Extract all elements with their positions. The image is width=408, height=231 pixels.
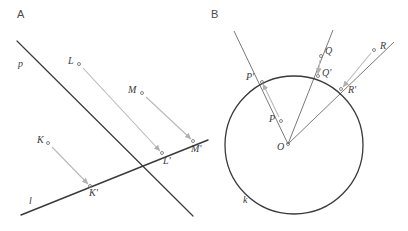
ray-O-through-P [234,31,288,144]
point-M-label: M [127,84,137,95]
point-Rprime-marker [340,88,343,91]
panel-b-label: B [211,8,218,20]
point-K-marker [47,142,50,145]
point-P-label: P [268,113,275,124]
line-l-label: l [29,195,32,206]
ray-O-through-R [288,42,394,144]
point-P-marker [280,120,283,123]
point-Pprime-label: P' [245,71,255,82]
figure-canvas: A p l K L M K' L' M' B [0,0,408,231]
point-Rprime-label: R' [347,84,357,95]
point-Kprime-label: K' [88,187,99,198]
point-Pprime-marker [261,81,264,84]
point-R-label: R [379,40,386,51]
point-R-marker [373,49,376,52]
point-M-marker [141,92,144,95]
point-Q-marker [320,55,323,58]
panel-b: B k O P Q R P' Q' R' [211,8,394,214]
point-L-marker [78,63,81,66]
point-Lprime-label: L' [162,155,172,166]
geometry-figure: A p l K L M K' L' M' B [0,0,408,231]
point-L-label: L [67,55,74,66]
line-p-label: p [17,58,23,69]
point-Qprime-label: Q' [322,67,332,78]
point-O-label: O [277,141,284,152]
line-p [17,41,193,216]
point-Mprime-label: M' [190,143,202,154]
panel-a-label: A [17,8,25,20]
point-Qprime-marker [317,75,320,78]
arrow-L-to-Lprime [83,68,160,151]
panel-a: A p l K L M K' L' M' [17,8,208,216]
arrow-M-to-Mprime [146,97,191,139]
arrow-K-to-Kprime [52,147,88,184]
point-Q-label: Q [325,45,333,56]
point-K-label: K [36,134,45,145]
arrow-R-to-Rprime [343,53,371,87]
circle-k-label: k [243,194,248,205]
